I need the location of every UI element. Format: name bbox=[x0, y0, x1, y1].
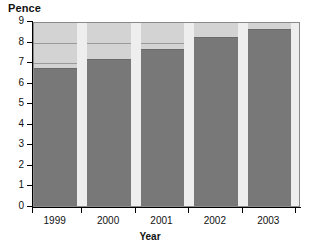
x-tick-label: 2003 bbox=[247, 215, 290, 227]
y-tick-label: 5 bbox=[18, 98, 24, 108]
x-tick-mark bbox=[295, 208, 296, 213]
gap-band bbox=[184, 23, 194, 206]
y-tick-label: 0 bbox=[18, 201, 24, 211]
gap-band bbox=[131, 23, 141, 206]
x-tick-label: 2002 bbox=[193, 215, 236, 227]
y-axis-line bbox=[32, 21, 33, 208]
y-tick-label: 1 bbox=[18, 180, 24, 190]
x-tick-mark bbox=[188, 208, 189, 213]
y-tick-mark bbox=[27, 83, 32, 84]
x-tick-mark bbox=[242, 208, 243, 213]
y-tick-label: 7 bbox=[18, 57, 24, 67]
y-tick-label: 3 bbox=[18, 139, 24, 149]
y-tick-label: 9 bbox=[18, 16, 24, 26]
y-tick-mark bbox=[27, 103, 32, 104]
x-tick-label: 1999 bbox=[33, 215, 76, 227]
x-tick-label: 2001 bbox=[140, 215, 183, 227]
gap-band bbox=[77, 23, 87, 206]
x-tick-mark bbox=[32, 208, 33, 213]
gap-band bbox=[238, 23, 248, 206]
bar-2000 bbox=[87, 59, 130, 206]
x-axis-title: Year bbox=[0, 231, 300, 242]
bar-1999 bbox=[34, 68, 77, 206]
y-tick-mark bbox=[27, 165, 32, 166]
plot-area bbox=[33, 22, 300, 207]
x-tick-label: 2000 bbox=[86, 215, 129, 227]
y-tick-label: 4 bbox=[18, 119, 24, 129]
y-tick-mark bbox=[27, 62, 32, 63]
y-tick-mark bbox=[27, 185, 32, 186]
bar-2001 bbox=[141, 49, 184, 206]
x-tick-mark bbox=[81, 208, 82, 213]
y-tick-label: 2 bbox=[18, 160, 24, 170]
bar-chart-figure: Pence 0123456789 19992000200120022003 Ye… bbox=[0, 0, 316, 250]
x-tick-mark bbox=[135, 208, 136, 213]
y-tick-mark bbox=[27, 206, 32, 207]
y-tick-label: 6 bbox=[18, 78, 24, 88]
y-tick-label: 8 bbox=[18, 37, 24, 47]
gap-band bbox=[291, 23, 300, 206]
bar-2002 bbox=[194, 37, 237, 206]
y-tick-mark bbox=[27, 42, 32, 43]
x-axis-line bbox=[32, 207, 301, 208]
y-tick-mark bbox=[27, 21, 32, 22]
bar-2003 bbox=[248, 29, 291, 206]
y-axis-title: Pence bbox=[8, 2, 41, 14]
y-tick-mark bbox=[27, 124, 32, 125]
gridline bbox=[34, 22, 299, 23]
y-tick-mark bbox=[27, 144, 32, 145]
